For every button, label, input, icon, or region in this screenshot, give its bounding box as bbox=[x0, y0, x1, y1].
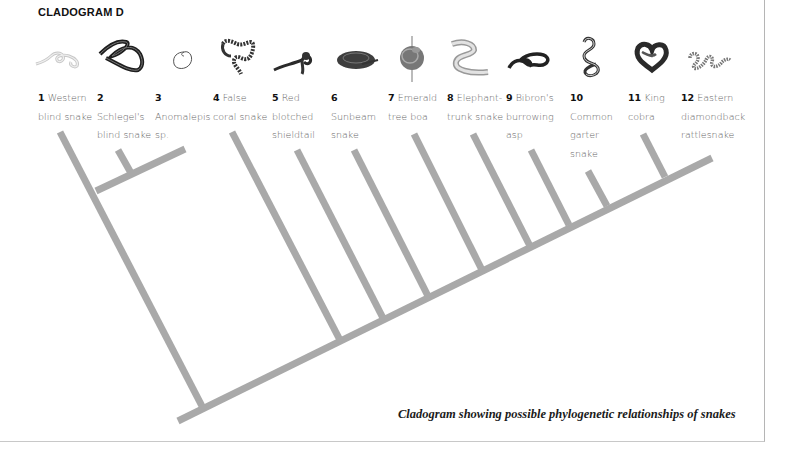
taxon-number: 12 bbox=[681, 92, 694, 103]
taxon-name-line: tree boa bbox=[388, 111, 428, 122]
taxon-name-line: cobra bbox=[628, 111, 655, 122]
taxon-number: 8 bbox=[447, 92, 454, 103]
taxon-label-4: 4False coral snake bbox=[213, 89, 275, 126]
taxon-name-line: False bbox=[223, 92, 247, 103]
taxon-name-line: Elephant- bbox=[457, 92, 503, 103]
branch-10 bbox=[588, 171, 607, 206]
figure-caption: Cladogram showing possible phylogenetic … bbox=[398, 407, 736, 422]
taxon-name-line: Common bbox=[570, 111, 613, 122]
taxon-label-7: 7Emerald tree boa bbox=[388, 89, 450, 126]
taxon-name-line: Schlegel's bbox=[97, 111, 145, 122]
taxon-label-5: 5Red blotched shieldtail bbox=[272, 89, 334, 145]
taxon-name-line: Red bbox=[282, 92, 300, 103]
branch-3 bbox=[96, 149, 185, 191]
taxon-name-line: blotched bbox=[272, 111, 313, 122]
taxon-name-line: Bibron's bbox=[516, 92, 554, 103]
taxon-number: 1 bbox=[38, 92, 45, 103]
taxon-number: 11 bbox=[628, 92, 641, 103]
branch-8 bbox=[473, 134, 530, 246]
taxon-number: 6 bbox=[331, 92, 338, 103]
taxon-name-line: trunk snake bbox=[447, 111, 503, 122]
taxon-name-line: snake bbox=[570, 148, 598, 159]
taxon-name-line: burrowing bbox=[506, 111, 554, 122]
taxon-name-line: shieldtail bbox=[272, 129, 315, 140]
taxon-name-line: sp. bbox=[155, 129, 169, 140]
taxon-name-line: asp bbox=[506, 129, 523, 140]
branch-9 bbox=[531, 150, 569, 225]
taxon-name-line: Anomalepis bbox=[155, 111, 211, 122]
taxon-label-12: 12Eastern diamondback rattlesnake bbox=[681, 89, 743, 145]
taxon-label-9: 9Bibron's burrowing asp bbox=[506, 89, 568, 145]
taxon-name-line: Western bbox=[48, 92, 87, 103]
taxon-name-line: Eastern bbox=[697, 92, 733, 103]
taxon-label-2: 2 Schlegel's blind snake bbox=[97, 89, 159, 145]
taxon-number: 7 bbox=[388, 92, 395, 103]
taxon-number: 4 bbox=[213, 92, 220, 103]
taxon-number: 10 bbox=[570, 92, 583, 103]
cladogram-tree bbox=[0, 0, 788, 452]
taxon-name-line: Emerald bbox=[398, 92, 438, 103]
taxon-label-6: 6 Sunbeam snake bbox=[331, 89, 393, 145]
taxon-name-line: Sunbeam bbox=[331, 111, 376, 122]
branch-4 bbox=[232, 132, 341, 342]
branch-7 bbox=[414, 134, 482, 270]
taxon-label-3: 3 Anomalepis sp. bbox=[155, 89, 217, 145]
branch-5 bbox=[297, 150, 384, 320]
taxon-label-1: 1Western blind snake bbox=[38, 89, 100, 126]
taxon-name-line: diamondback bbox=[681, 111, 745, 122]
taxon-name-line: snake bbox=[331, 129, 359, 140]
taxon-number: 2 bbox=[97, 92, 104, 103]
taxon-name-line: King bbox=[644, 92, 665, 103]
taxon-label-10: 10 Common garter snake bbox=[570, 89, 632, 163]
branch-2 bbox=[118, 150, 131, 173]
taxon-name-line: rattlesnake bbox=[681, 129, 734, 140]
taxon-number: 3 bbox=[155, 92, 162, 103]
taxon-name-line: blind snake bbox=[97, 129, 151, 140]
taxon-name-line: blind snake bbox=[38, 111, 92, 122]
taxon-name-line: coral snake bbox=[213, 111, 267, 122]
taxon-label-8: 8Elephant- trunk snake bbox=[447, 89, 509, 126]
taxon-name-line: garter bbox=[570, 129, 599, 140]
branch-11 bbox=[643, 134, 665, 177]
taxon-number: 9 bbox=[506, 92, 513, 103]
taxon-number: 5 bbox=[272, 92, 279, 103]
